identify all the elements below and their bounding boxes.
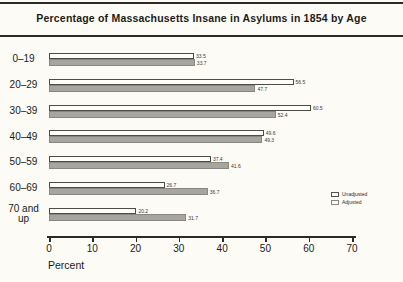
x-tick-label: 10 [80,243,104,254]
adjusted-bar [49,188,208,195]
adjusted-value-label: 49.3 [264,137,274,143]
adjusted-bar [49,111,276,118]
category-label: 20–29 [0,72,47,98]
x-tick-mark [49,238,51,242]
x-tick-mark [352,238,354,242]
x-tick-mark [92,238,94,242]
x-tick-label: 30 [167,243,191,254]
category-label: 50–59 [0,150,47,176]
adjusted-value-label: 33.7 [197,60,207,66]
adjusted-value-label: 36.7 [210,189,220,195]
unadjusted-value-label: 56.5 [296,79,306,85]
adjusted-bar [49,136,262,143]
legend: Unadjusted Adjusted [331,191,367,207]
category-label: 70 and up [0,201,47,227]
unadjusted-value-label: 33.5 [196,53,206,59]
adjusted-value-label: 47.7 [257,86,267,92]
category-label: 0–19 [0,47,47,73]
x-tick-mark [309,238,311,242]
x-tick-mark [136,238,138,242]
unadjusted-value-label: 60.5 [313,105,323,111]
x-axis-label: Percent [48,259,84,271]
top-rule [0,2,403,4]
x-tick-label: 0 [37,243,61,254]
adjusted-bar [49,162,229,169]
x-tick-label: 60 [297,243,321,254]
x-tick-label: 20 [124,243,148,254]
adjusted-bar [49,85,255,92]
plot-area: Unadjusted Adjusted Percent 0–1933.533.7… [0,40,403,282]
category-label: 40–49 [0,124,47,150]
adjusted-swatch-icon [331,200,339,205]
x-tick-mark [265,238,267,242]
chart-title: Percentage of Massachusetts Insane in As… [0,12,403,24]
adjusted-bar [49,214,186,221]
chart-figure: Percentage of Massachusetts Insane in As… [0,0,403,282]
x-tick-label: 70 [340,243,364,254]
adjusted-value-label: 41.6 [231,163,241,169]
adjusted-bar [49,59,195,66]
unadjusted-swatch-icon [331,192,339,197]
legend-item-unadjusted: Unadjusted [331,191,367,197]
adjusted-value-label: 52.4 [278,112,288,118]
x-tick-mark [222,238,224,242]
legend-item-adjusted: Adjusted [331,199,367,205]
category-label: 30–39 [0,98,47,124]
legend-label: Unadjusted [342,191,367,197]
x-tick-label: 50 [253,243,277,254]
x-tick-mark [179,238,181,242]
title-separator-rule [0,35,403,37]
unadjusted-value-label: 49.6 [266,130,276,136]
legend-label: Adjusted [342,199,361,205]
x-tick-label: 40 [210,243,234,254]
adjusted-value-label: 31.7 [188,215,198,221]
category-label: 60–69 [0,176,47,202]
